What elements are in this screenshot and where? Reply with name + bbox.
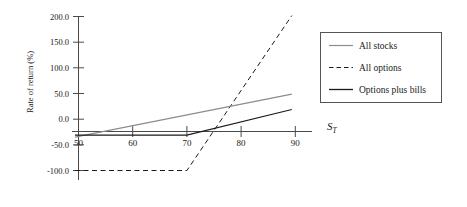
y-axis-title: Rate of return (%) (25, 51, 35, 113)
x-tick-label: 50 (74, 138, 84, 148)
legend-label-options-plus-bills: Options plus bills (359, 85, 426, 95)
x-tick-label: 90 (291, 138, 301, 148)
y-tick-label: -100.0 (47, 166, 69, 176)
x-tick-label: 80 (237, 138, 247, 148)
chart-background (0, 0, 467, 207)
rate-of-return-chart: 200.0 150.0 100.0 50.0 0.0 -50.0 -100.0 … (0, 0, 467, 207)
y-tick-label: 0.0 (58, 114, 69, 124)
y-tick-label: 150.0 (50, 37, 69, 47)
x-tick-label: 60 (128, 138, 138, 148)
y-tick-label: -50.0 (51, 140, 69, 150)
y-tick-label: 200.0 (50, 12, 69, 22)
legend-label-all-stocks: All stocks (359, 41, 398, 51)
y-tick-label: 50.0 (54, 89, 69, 99)
x-tick-label: 70 (182, 138, 192, 148)
legend-label-all-options: All options (359, 63, 402, 73)
y-tick-label: 100.0 (50, 63, 69, 73)
